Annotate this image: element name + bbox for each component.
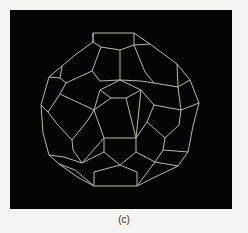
figure-panel [10,10,232,209]
polyhedron-wireframe [0,0,248,233]
figure-caption: (c) [0,214,248,225]
